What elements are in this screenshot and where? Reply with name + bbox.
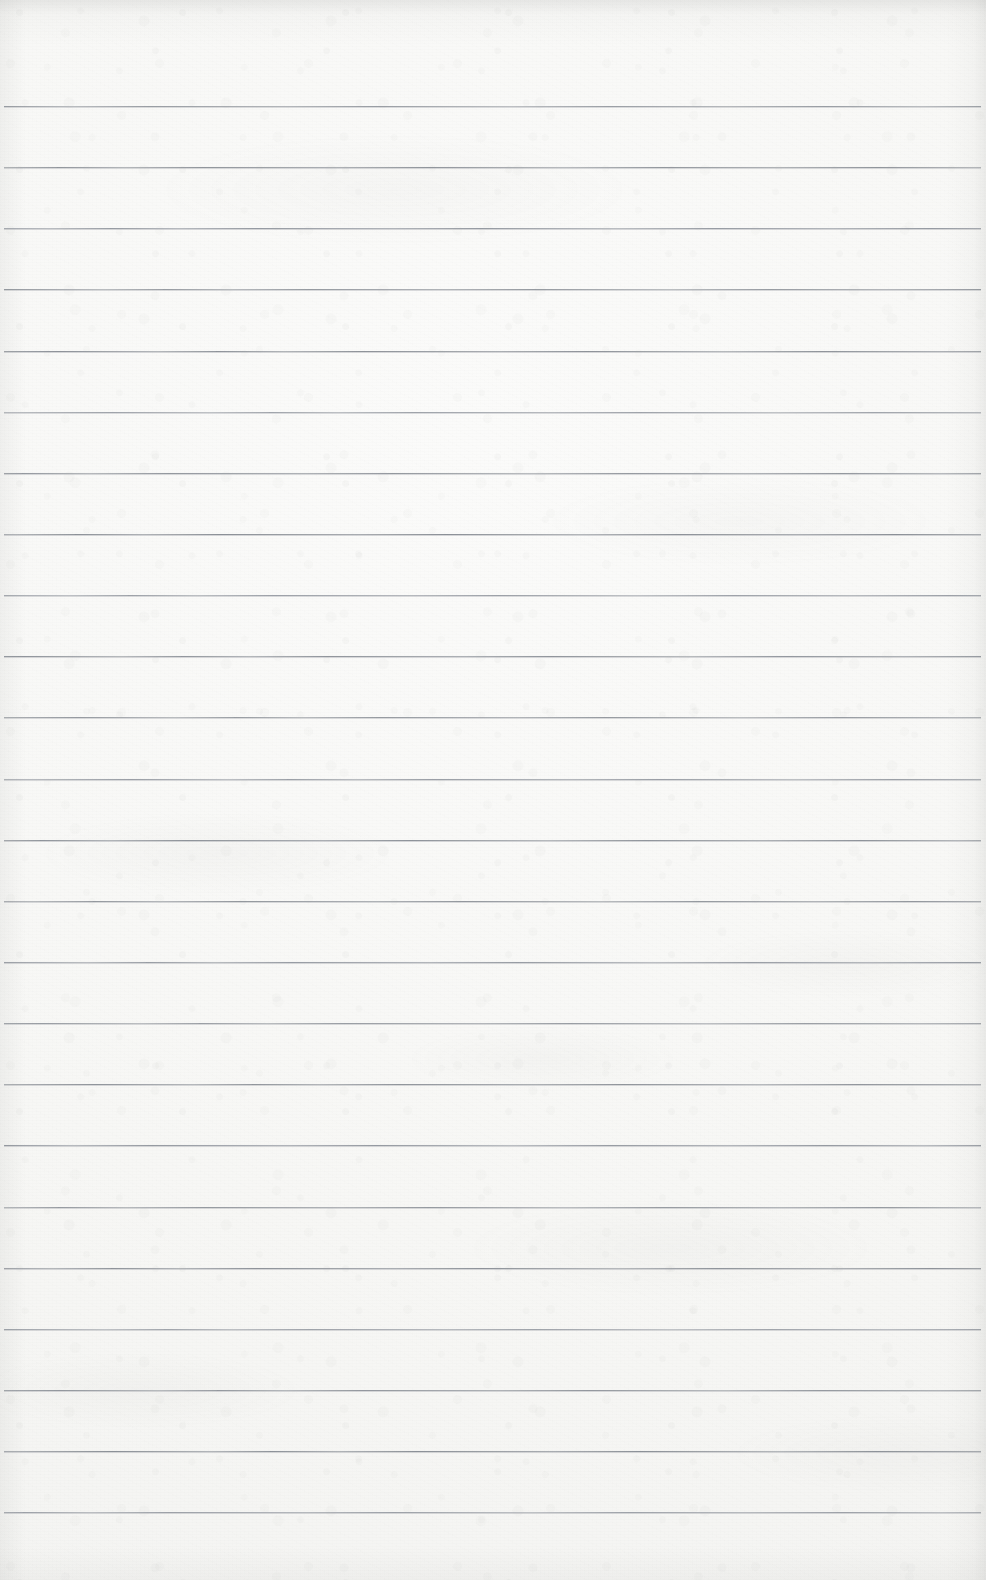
- page-edge-vignette: [0, 0, 986, 1580]
- notebook-page: [0, 0, 986, 1580]
